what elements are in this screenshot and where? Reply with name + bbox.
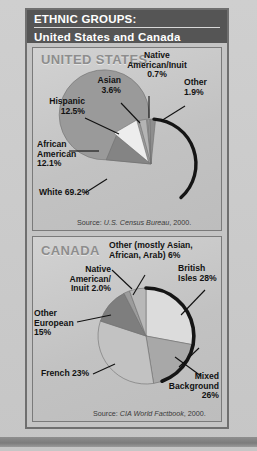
canada-label-other: Other (mostly Asian, African, Arab) 6%	[109, 241, 205, 260]
us-slice-other	[150, 119, 155, 164]
canada-label-other-european: Other European 15%	[34, 309, 82, 338]
us-label-other: Other 1.9%	[184, 78, 222, 97]
us-source-name: U.S. Census Bureau	[104, 218, 170, 227]
canada-chart-panel: CANADA	[32, 236, 222, 422]
canada-leader-native	[112, 270, 132, 289]
us-label-hispanic: Hispanic 12.5%	[33, 97, 85, 116]
canada-label-mixed-background: Mixed Background 26%	[157, 372, 219, 401]
us-source: Source: U.S. Census Bureau, 2000.	[77, 218, 191, 227]
canada-source-prefix: Source:	[93, 409, 120, 418]
us-chart-panel: UNITED STATES	[32, 47, 222, 231]
us-label-native-american: Native American/Inuit 0.7%	[125, 51, 189, 80]
header-title-line2: United States and Canada	[34, 28, 220, 44]
header-bar: ETHNIC GROUPS: United States and Canada	[27, 10, 227, 43]
bottom-band	[0, 437, 257, 447]
canada-source: Source: CIA World Factbook, 2000.	[93, 409, 206, 418]
us-source-prefix: Source:	[77, 218, 104, 227]
us-label-african-american: African American 12.1%	[37, 140, 91, 169]
us-label-asian: Asian 3.6%	[73, 76, 121, 95]
canada-label-british-isles: British Isles 28%	[178, 264, 222, 283]
infographic-page: ETHNIC GROUPS: United States and Canada …	[0, 0, 257, 451]
canada-source-name: CIA World Factbook	[120, 409, 184, 418]
us-source-suffix: , 2000.	[169, 218, 191, 227]
us-label-white: White 69.2%	[39, 188, 109, 198]
us-pie-arc-accent	[154, 119, 196, 197]
us-leader-other	[161, 106, 185, 121]
canada-label-native-american: Native American/ Inuit 2.0%	[53, 265, 111, 294]
canada-label-french: French 23%	[41, 369, 103, 379]
canada-source-suffix: , 2000.	[184, 409, 206, 418]
canada-leader-british	[181, 290, 205, 315]
header-title-line1: ETHNIC GROUPS:	[34, 13, 220, 28]
